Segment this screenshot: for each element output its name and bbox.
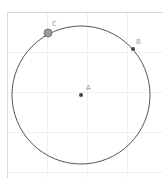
point-label: B (136, 38, 141, 46)
point-a[interactable]: A (79, 84, 91, 97)
point-marker-icon[interactable] (131, 47, 135, 51)
point-b[interactable]: B (131, 38, 141, 51)
point-label: C (52, 20, 57, 28)
point-marker-icon[interactable] (79, 93, 83, 97)
point-label: A (86, 84, 91, 92)
points-layer: ABC (44, 20, 141, 97)
point-c[interactable]: C (44, 20, 57, 37)
grid-lines (7, 12, 163, 178)
selected-point-marker-icon[interactable] (44, 29, 52, 37)
geometry-canvas[interactable]: ABC (0, 0, 163, 178)
